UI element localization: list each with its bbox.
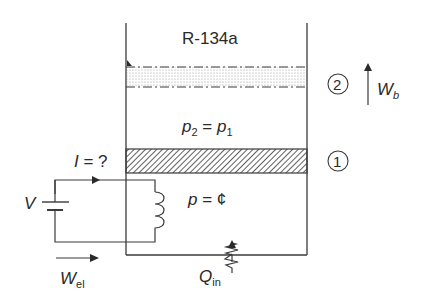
- voltage-label: V: [24, 195, 35, 212]
- electric-circuit: [42, 180, 164, 242]
- equals-sign: =: [198, 117, 217, 136]
- electrical-work-symbol: W: [60, 269, 76, 288]
- constant-pressure-label: p = ¢: [188, 191, 226, 208]
- boundary-work-subscript: b: [393, 89, 399, 101]
- piston-state-2: [126, 60, 307, 87]
- heat-in-label: Qin: [199, 268, 221, 288]
- equals-sign: =: [197, 190, 216, 209]
- electrical-work-subscript: el: [76, 278, 85, 290]
- heating-coil-icon: [155, 192, 164, 232]
- stop-marker-icon: [127, 60, 132, 66]
- electrical-work-label: Wel: [60, 270, 85, 290]
- heat-symbol: Q: [199, 267, 212, 286]
- arrow-up-icon: [364, 63, 372, 71]
- arrow-right-icon: [90, 254, 99, 262]
- piston-cylinder-diagram: R-134a 2 1 Wb p2 = p1 p = ¢ I = ? V Wel …: [0, 0, 427, 306]
- state-1-label: 1: [333, 154, 341, 169]
- substance-label: R-134a: [182, 30, 238, 47]
- current-unknown: = ?: [79, 152, 108, 171]
- circuit-top-wire: [55, 180, 155, 194]
- circuit-bottom-wire: [55, 210, 155, 242]
- cylinder: [126, 23, 307, 255]
- pressure-relation: p2 = p1: [182, 118, 233, 138]
- current-label: I = ?: [74, 153, 108, 170]
- p1-subscript: 1: [226, 126, 232, 138]
- heat-input: [225, 240, 238, 273]
- boundary-work-symbol: W: [377, 80, 393, 99]
- electrical-work-arrow: [56, 254, 99, 262]
- state-2-label: 2: [333, 77, 341, 92]
- current-arrow-icon: [92, 176, 100, 184]
- heat-subscript: in: [212, 276, 221, 288]
- piston-state-1: [126, 149, 307, 173]
- boundary-work-label: Wb: [377, 81, 399, 101]
- boundary-work-arrow: [364, 63, 372, 105]
- constant-symbol: ¢: [217, 190, 226, 209]
